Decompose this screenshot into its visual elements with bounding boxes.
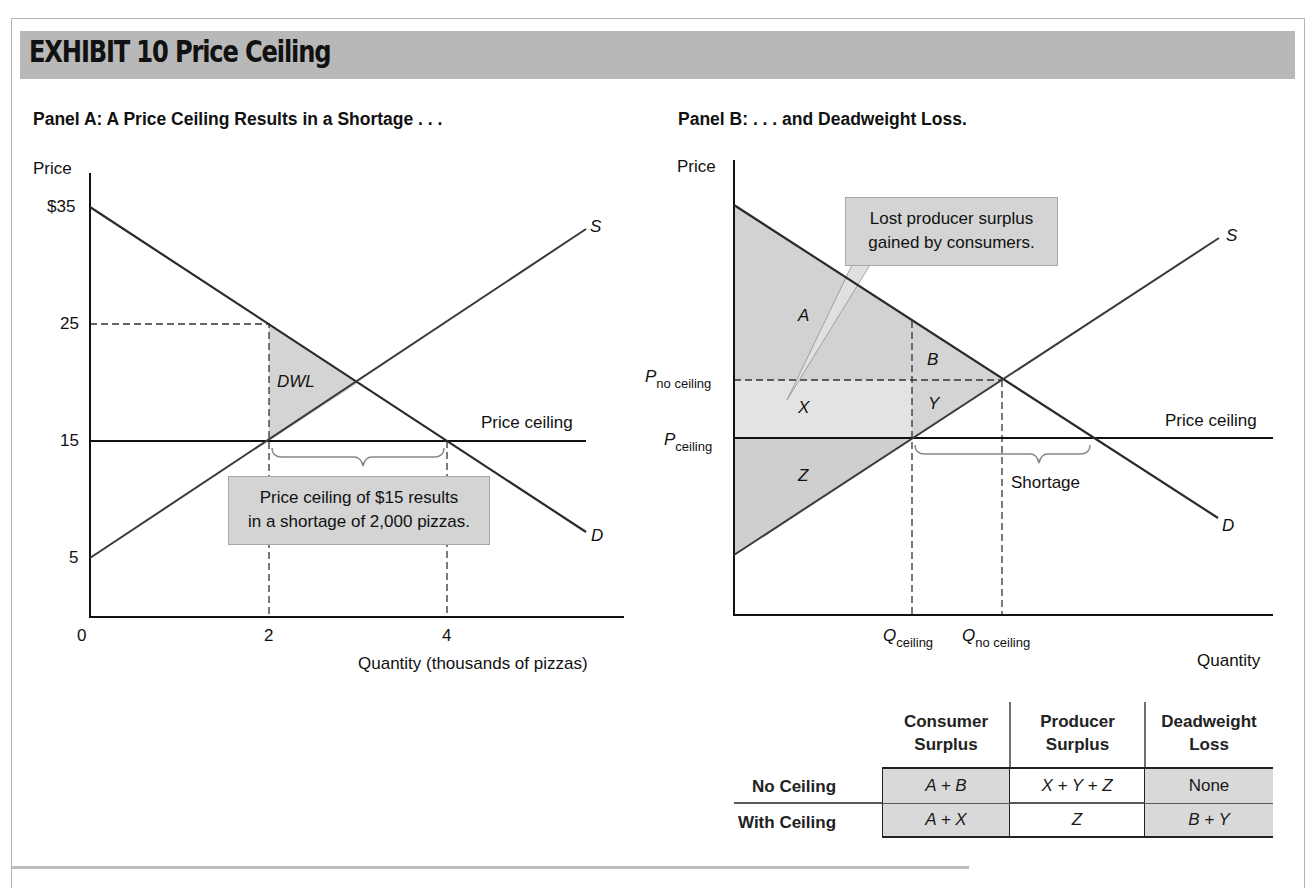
table-header-producer-surplus: Producer Surplus [1010,710,1145,756]
region-z-label: Z [798,466,808,486]
panel-a-chart [89,173,624,618]
table-row: Z [1010,804,1145,836]
table-row-label-no-ceiling: No Ceiling [752,777,836,797]
table-header-deadweight-loss: Deadweight Loss [1145,710,1273,756]
p-no-ceiling-label: Pno ceiling [645,367,711,387]
table-row: A + B [883,769,1010,803]
table-row: B + Y [1145,804,1273,836]
panel-a-y-axis-label: Price [33,159,72,179]
table-header-consumer-surplus: Consumer Surplus [882,710,1010,756]
dwl-label: DWL [277,372,315,392]
q-no-ceiling-label: Qno ceiling [962,626,1030,646]
panel-b-callout-line1: Lost producer surplus [846,207,1057,231]
panel-b-y-axis-label: Price [677,157,716,177]
panel-b-callout-line2: gained by consumers. [846,231,1057,255]
panel-a-x-axis-label: Quantity (thousands of pizzas) [358,654,588,674]
panel-b-x-axis-label: Quantity [1197,651,1260,671]
panel-b-ceiling-label: Price ceiling [1165,411,1257,431]
table-row: X + Y + Z [1010,769,1145,803]
panel-a-x-tick-4: 4 [442,626,451,646]
panel-a-y-tick-15: 15 [60,431,79,451]
shortage-label: Shortage [1011,473,1080,493]
panel-a-ceiling-label: Price ceiling [481,413,573,433]
panel-a-x-tick-2: 2 [264,626,273,646]
panel-a-x-tick-0: 0 [77,626,86,646]
panel-a-callout: Price ceiling of $15 results in a shorta… [228,476,490,545]
panel-a-supply-label: S [590,217,601,237]
region-x-label: X [798,398,809,418]
panel-a-y-tick-35: $35 [47,197,75,217]
q-ceiling-label: Qceiling [883,626,933,646]
table-row-label-with-ceiling: With Ceiling [738,813,836,833]
panel-b-callout: Lost producer surplus gained by consumer… [845,197,1058,266]
table-row: A + X [883,804,1010,836]
panel-a-callout-line1: Price ceiling of $15 results [229,486,489,510]
panel-a-y-tick-5: 5 [69,548,78,568]
shortage-brace-a [272,448,444,466]
panel-a-y-tick-25: 25 [60,314,79,334]
panel-a-demand-label: D [591,526,603,546]
panel-b-supply-label: S [1226,226,1237,246]
region-b-label: B [927,350,938,370]
region-a-label: A [798,306,809,326]
region-x [734,380,912,438]
p-ceiling-label: Pceiling [664,430,712,450]
region-y-label: Y [928,394,939,414]
panel-a-callout-line2: in a shortage of 2,000 pizzas. [229,510,489,534]
bottom-rule [12,866,969,869]
panel-b-demand-label: D [1222,516,1234,536]
table-row: None [1145,769,1273,803]
